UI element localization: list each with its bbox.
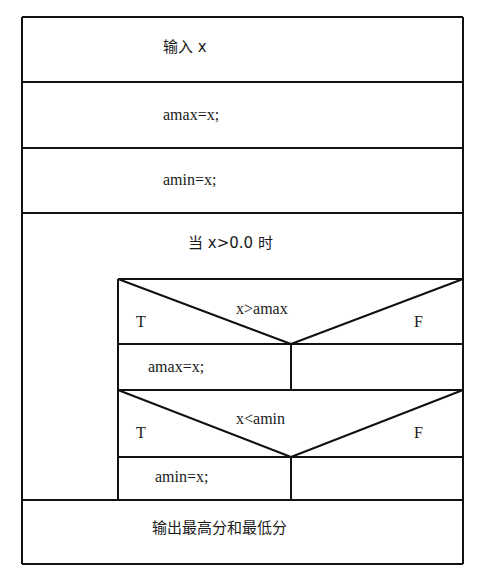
decision-min-condition: x<amin	[236, 410, 285, 428]
loop-condition: 当 x>0.0 时	[188, 234, 273, 252]
decision-max-true-label: T	[136, 313, 146, 331]
decision-max-true-branch: amax=x;	[148, 358, 204, 376]
decision-max-condition: x>amax	[236, 300, 288, 318]
ns-flowchart: 输入 x amax=x; amin=x; 当 x>0.0 时 x>amax T …	[0, 0, 482, 581]
decision-min-true-branch: amin=x;	[155, 468, 208, 486]
decision-max-false-label: F	[414, 313, 423, 331]
output-block: 输出最高分和最低分	[152, 519, 287, 537]
input-block: 输入 x	[163, 38, 207, 56]
decision-min-false-label: F	[414, 424, 423, 442]
init-min-block: amin=x;	[163, 171, 216, 189]
decision-min-true-label: T	[136, 424, 146, 442]
flowchart-lines	[0, 0, 482, 581]
init-max-block: amax=x;	[163, 106, 219, 124]
